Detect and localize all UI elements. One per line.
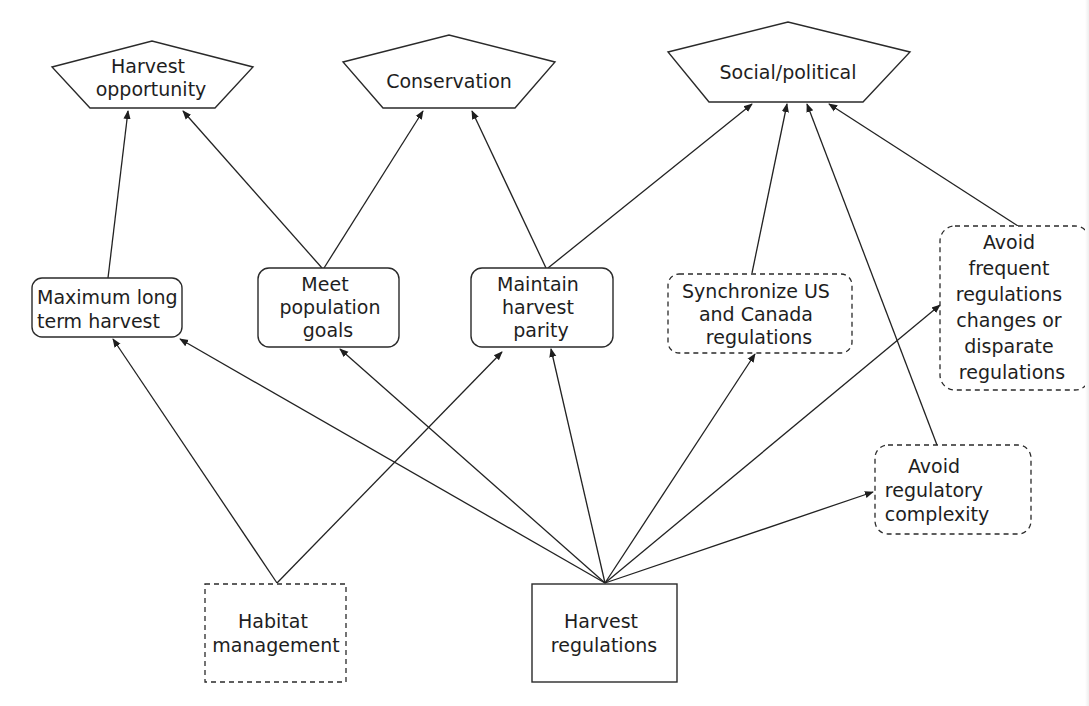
frequent-changes-label-line-6: regulations xyxy=(959,361,1065,383)
node-meet-population-goals: Meet population goals xyxy=(258,268,399,347)
habitat-label-line-2: management xyxy=(212,634,339,656)
edge-synchronize-to-social-political xyxy=(752,104,787,273)
node-avoid-frequent-changes: Avoid frequent regulations changes or di… xyxy=(940,226,1089,390)
edge-harvest-parity-to-social-political xyxy=(548,104,752,268)
harvest-parity-label-line-2: harvest xyxy=(502,296,574,318)
synchronize-label-line-3: regulations xyxy=(706,326,812,348)
edge-regulations-to-harvest-parity xyxy=(551,349,605,583)
page-edge-shadow xyxy=(1085,0,1089,706)
edge-habitat-to-harvest-parity xyxy=(277,352,502,583)
harvest-opportunity-label-line-2: opportunity xyxy=(96,78,207,100)
edge-regulations-to-max-harvest xyxy=(180,339,605,583)
social-political-label: Social/political xyxy=(719,61,856,83)
synchronize-label-line-1: Synchronize US xyxy=(682,280,830,302)
node-avoid-regulatory-complexity: Avoid regulatory complexity xyxy=(875,445,1031,534)
frequent-changes-label-line-3: regulations xyxy=(956,283,1062,305)
regulatory-complexity-label-line-1: Avoid xyxy=(908,455,960,477)
population-goals-label-line-2: population xyxy=(279,296,380,318)
conservation-label: Conservation xyxy=(386,70,512,92)
frequent-changes-label-line-1: Avoid xyxy=(983,231,1035,253)
edge-regulations-to-population-goals xyxy=(340,349,605,583)
harvest-opportunity-label-line-1: Harvest xyxy=(111,55,185,77)
frequent-changes-label-line-4: changes or xyxy=(956,309,1061,331)
max-harvest-label-line-2: term harvest xyxy=(37,310,160,332)
frequent-changes-label-line-2: frequent xyxy=(968,257,1049,279)
population-goals-label-line-1: Meet xyxy=(301,273,348,295)
regulatory-complexity-label-line-3: complexity xyxy=(885,503,990,525)
harvest-regulations-label-line-2: regulations xyxy=(551,634,657,656)
edge-regulations-to-regulatory-complexity xyxy=(605,492,873,583)
edge-max-harvest-to-harvest-opportunity xyxy=(108,111,128,278)
node-max-long-term-harvest: Maximum long term harvest xyxy=(32,278,184,337)
harvest-regulations-label-line-1: Harvest xyxy=(564,610,638,632)
node-habitat-management: Habitat management xyxy=(205,584,346,682)
edge-population-goals-to-harvest-opportunity xyxy=(183,111,322,268)
edge-habitat-to-max-harvest xyxy=(113,339,277,583)
regulatory-complexity-label-line-2: regulatory xyxy=(885,479,983,501)
node-synchronize-us-canada: Synchronize US and Canada regulations xyxy=(668,274,852,353)
population-goals-label-line-3: goals xyxy=(303,319,354,341)
habitat-label-line-1: Habitat xyxy=(238,610,308,632)
frequent-changes-label-line-5: disparate xyxy=(964,335,1054,357)
harvest-parity-label-line-3: parity xyxy=(513,319,569,341)
node-conservation: Conservation xyxy=(343,35,555,108)
node-harvest-opportunity: Harvest opportunity xyxy=(52,41,253,108)
node-social-political: Social/political xyxy=(668,22,910,102)
max-harvest-label-line-1: Maximum long xyxy=(37,286,178,308)
node-maintain-harvest-parity: Maintain harvest parity xyxy=(471,268,613,347)
harvest-parity-label-line-1: Maintain xyxy=(497,273,579,295)
node-harvest-regulations: Harvest regulations xyxy=(532,584,677,682)
edge-population-goals-to-conservation xyxy=(324,111,423,268)
influence-diagram: Harvest opportunity Conservation Social/… xyxy=(0,0,1089,706)
svg-text:Harvest opportunity: Harvest opportunity xyxy=(96,55,207,100)
edge-regulations-to-synchronize xyxy=(605,354,755,583)
edge-harvest-parity-to-conservation xyxy=(472,111,546,268)
edge-frequent-changes-to-social-political xyxy=(829,104,1018,226)
synchronize-label-line-2: and Canada xyxy=(699,303,813,325)
